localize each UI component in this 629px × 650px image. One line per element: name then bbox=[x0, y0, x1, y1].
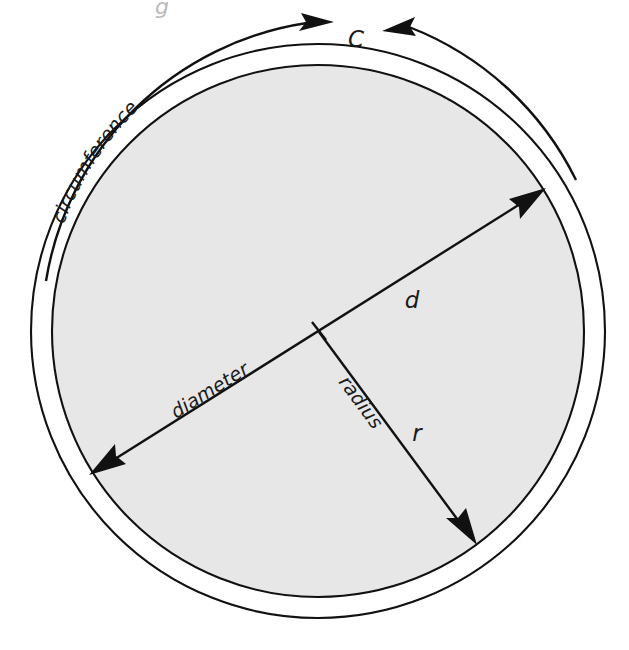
figure-canvas: g circumference C diameter d bbox=[0, 0, 629, 650]
diameter-symbol-label: d bbox=[405, 287, 420, 313]
cropped-text-fragment: g bbox=[155, 0, 169, 19]
circumference-arrow-left-head bbox=[299, 13, 334, 31]
circumference-symbol-label: C bbox=[348, 26, 364, 52]
circle-diagram: g circumference C diameter d bbox=[0, 0, 629, 650]
radius-symbol-label: r bbox=[412, 420, 423, 446]
